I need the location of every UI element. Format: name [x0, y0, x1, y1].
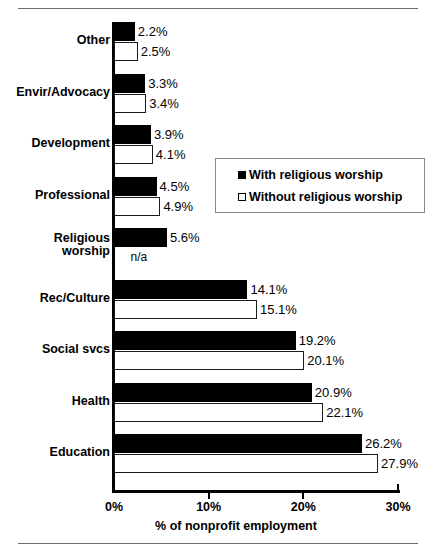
category-label-line: Health	[0, 395, 110, 408]
bar-without-religious-worship	[114, 42, 138, 61]
bar-group: Health20.9%22.1%	[0, 383, 434, 425]
bar-value-label: 4.5%	[160, 177, 190, 196]
category-label: Envir/Advocacy	[0, 86, 110, 99]
chart-legend: With religious worship Without religious…	[215, 158, 425, 213]
category-label: Social svcs	[0, 343, 110, 356]
x-axis-tick	[302, 493, 304, 499]
top-divider-rule	[18, 8, 418, 9]
bottom-divider-rule	[18, 543, 418, 544]
category-label: Religiousworship	[0, 232, 110, 258]
bar-value-label: 5.6%	[170, 228, 200, 247]
bar-without-religious-worship	[114, 300, 257, 319]
chart-figure: Other2.2%2.5%Envir/Advocacy3.3%3.4%Devel…	[0, 0, 434, 555]
x-axis-tick	[397, 484, 399, 493]
bar-value-label: 4.9%	[163, 197, 193, 216]
category-label: Other	[0, 34, 110, 47]
bar-value-label: 20.9%	[315, 383, 352, 402]
category-label: Professional	[0, 189, 110, 202]
bar-value-not-available: n/a	[131, 248, 148, 267]
x-axis-title: % of nonprofit employment	[0, 519, 434, 533]
bar-without-religious-worship	[114, 454, 378, 473]
bar-group: Envir/Advocacy3.3%3.4%	[0, 74, 434, 116]
bar-group: Social svcs19.2%20.1%	[0, 331, 434, 373]
bar-value-label: 19.2%	[299, 331, 336, 350]
category-label: Health	[0, 395, 110, 408]
bar-without-religious-worship	[114, 197, 160, 216]
x-axis-tick-label: 10%	[179, 500, 239, 514]
bar-group: Religiousworship5.6%n/a	[0, 228, 434, 270]
bar-value-label: 2.5%	[141, 42, 171, 61]
category-label-line: Rec/Culture	[0, 292, 110, 305]
bar-with-religious-worship	[114, 22, 135, 41]
category-label-line: Envir/Advocacy	[0, 86, 110, 99]
bar-value-label: 20.1%	[307, 351, 344, 370]
legend-label-0: With religious worship	[249, 168, 383, 182]
x-axis-tick-label: 30%	[368, 500, 428, 514]
bar-with-religious-worship	[114, 383, 312, 402]
bar-value-label: 14.1%	[250, 280, 287, 299]
category-label-line: Professional	[0, 189, 110, 202]
bar-with-religious-worship	[114, 177, 157, 196]
bar-group: Rec/Culture14.1%15.1%	[0, 280, 434, 322]
x-axis-line	[112, 490, 400, 493]
category-label: Development	[0, 137, 110, 150]
category-label: Rec/Culture	[0, 292, 110, 305]
bar-group: Other2.2%2.5%	[0, 22, 434, 64]
legend-item-without-religious-worship: Without religious worship	[238, 190, 402, 204]
bar-with-religious-worship	[114, 280, 247, 299]
legend-label-1: Without religious worship	[249, 190, 402, 204]
bar-value-label: 3.3%	[148, 74, 178, 93]
bar-value-label: 15.1%	[260, 300, 297, 319]
bar-without-religious-worship	[114, 94, 146, 113]
bar-value-label: 22.1%	[326, 403, 363, 422]
category-label-line: Education	[0, 446, 110, 459]
x-axis-tick	[208, 493, 210, 499]
category-label-line: worship	[0, 245, 110, 258]
bar-value-label: 4.1%	[156, 145, 186, 164]
bar-value-label: 27.9%	[381, 454, 418, 473]
bar-value-label: 3.9%	[154, 125, 184, 144]
bar-value-label: 2.2%	[138, 22, 168, 41]
bar-with-religious-worship	[114, 125, 151, 144]
bar-without-religious-worship	[114, 145, 153, 164]
bar-with-religious-worship	[114, 434, 362, 453]
x-axis-tick	[113, 484, 115, 493]
legend-swatch-hollow-icon	[238, 193, 246, 201]
bar-value-label: 3.4%	[149, 94, 179, 113]
x-axis-tick-label: 0%	[84, 500, 144, 514]
bar-group: Education26.2%27.9%	[0, 434, 434, 476]
bar-without-religious-worship	[114, 351, 304, 370]
bar-value-label: 26.2%	[365, 434, 402, 453]
bar-with-religious-worship	[114, 228, 167, 247]
x-axis-tick-label: 20%	[273, 500, 333, 514]
category-label: Education	[0, 446, 110, 459]
legend-item-with-religious-worship: With religious worship	[238, 168, 383, 182]
bar-without-religious-worship	[114, 403, 323, 422]
category-label-line: Social svcs	[0, 343, 110, 356]
category-label-line: Development	[0, 137, 110, 150]
bar-with-religious-worship	[114, 74, 145, 93]
legend-swatch-filled-icon	[238, 171, 246, 179]
bar-with-religious-worship	[114, 331, 296, 350]
category-label-line: Other	[0, 34, 110, 47]
